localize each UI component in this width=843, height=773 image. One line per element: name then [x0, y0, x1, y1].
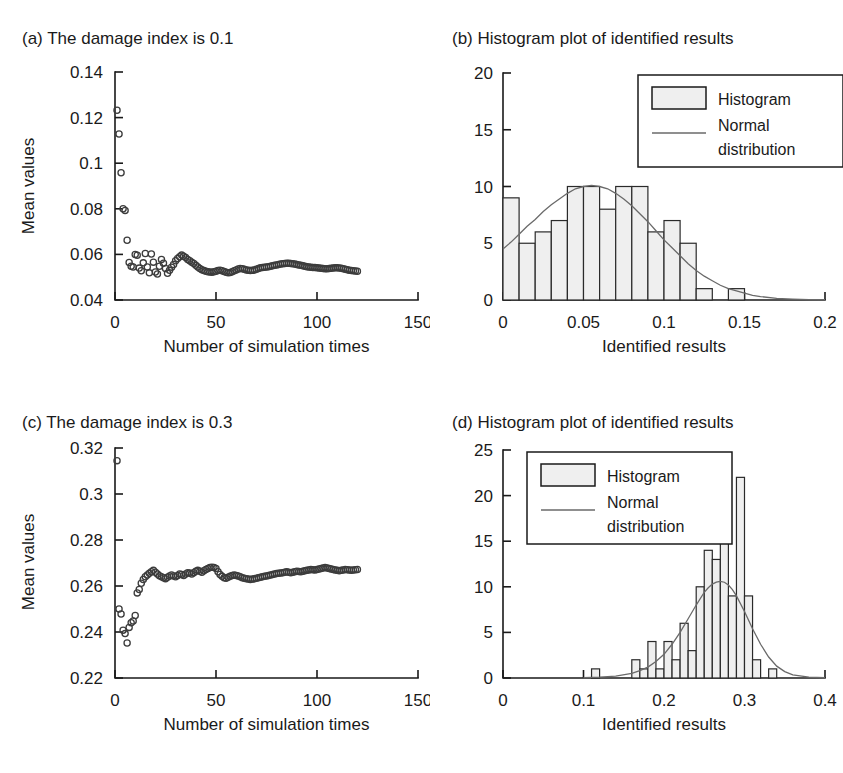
y-tick-label: 0.08: [70, 200, 103, 219]
panel-b-plot: 0510152000.050.10.150.2Identified result…: [474, 64, 843, 356]
histogram-bar: [632, 187, 648, 301]
data-point: [124, 640, 130, 646]
legend-label-normal-line2: distribution: [718, 141, 795, 158]
legend-label-normal-line2: distribution: [607, 518, 684, 535]
histogram-bar: [688, 651, 696, 678]
histogram-bar: [728, 596, 736, 678]
panel-b-title: (b) Histogram plot of identified results: [452, 29, 734, 48]
x-tick-label: 0: [498, 313, 507, 332]
y-tick-label: 0.3: [79, 485, 103, 504]
y-tick-label: 0.12: [70, 109, 103, 128]
histogram-bars: [503, 187, 745, 301]
histogram-bar: [769, 669, 777, 678]
x-axis-label: Identified results: [602, 715, 726, 734]
y-tick-label: 0.14: [70, 63, 103, 82]
x-tick-label: 0.15: [728, 313, 761, 332]
panel-a-plot: 0.040.060.080.10.120.14050100150Number o…: [19, 63, 430, 356]
panel-d-histogram-0p3: (d) Histogram plot of identified results…: [430, 390, 843, 773]
histogram-bar: [736, 477, 744, 678]
y-tick-label: 0.04: [70, 291, 103, 310]
x-tick-label: 0: [498, 691, 507, 710]
y-tick-label: 0.1: [79, 154, 103, 173]
histogram-bar: [664, 221, 680, 300]
histogram-bar: [672, 660, 680, 678]
legend-label-normal-line1: Normal: [718, 117, 770, 134]
histogram-bar: [745, 596, 753, 678]
x-tick-label: 0: [110, 691, 119, 710]
x-tick-label: 150: [404, 313, 430, 332]
y-tick-label: 0.24: [70, 623, 103, 642]
panel-b-svg: (b) Histogram plot of identified results…: [430, 0, 843, 390]
x-tick-label: 50: [207, 691, 226, 710]
y-tick-label: 5: [484, 234, 493, 253]
y-tick-label: 0.28: [70, 531, 103, 550]
legend-label-histogram: Histogram: [718, 91, 791, 108]
histogram-bar: [656, 669, 664, 678]
data-point: [150, 259, 156, 265]
y-tick-label: 0.22: [70, 669, 103, 688]
histogram-bar: [704, 550, 712, 678]
histogram-bar: [648, 642, 656, 678]
scatter-series: [114, 107, 361, 277]
histogram-bar: [696, 587, 704, 678]
panel-c-title: (c) The damage index is 0.3: [22, 413, 232, 432]
y-tick-label: 0.26: [70, 577, 103, 596]
x-axis-label: Number of simulation times: [164, 715, 370, 734]
y-axis-label: Mean values: [19, 514, 38, 610]
panel-d-plot: 051015202500.10.20.30.4Identified result…: [474, 441, 837, 734]
histogram-bar: [503, 198, 519, 300]
axis-frame: [115, 448, 418, 678]
panel-d-title: (d) Histogram plot of identified results: [452, 413, 734, 432]
data-point: [142, 250, 148, 256]
x-tick-label: 0.2: [813, 313, 837, 332]
histogram-bar: [696, 289, 712, 300]
histogram-bar: [632, 660, 640, 678]
data-point: [146, 270, 152, 276]
panel-c-mean-values-0p3: (c) The damage index is 0.3 0.220.240.26…: [0, 390, 430, 773]
x-tick-label: 100: [303, 691, 331, 710]
legend: HistogramNormaldistribution: [527, 452, 732, 544]
x-tick-label: 0.1: [652, 313, 676, 332]
histogram-bar: [648, 232, 664, 300]
y-tick-label: 20: [474, 64, 493, 83]
x-tick-label: 0: [110, 313, 119, 332]
histogram-bar: [712, 559, 720, 678]
legend-label-normal-line1: Normal: [607, 494, 659, 511]
y-tick-label: 5: [484, 623, 493, 642]
y-tick-label: 0: [484, 291, 493, 310]
y-tick-label: 15: [474, 532, 493, 551]
histogram-bar: [664, 642, 672, 678]
histogram-bar: [535, 232, 551, 300]
histogram-bar: [551, 221, 567, 300]
histogram-bar: [680, 243, 696, 300]
panel-a-svg: (a) The damage index is 0.1 0.040.060.08…: [0, 0, 430, 390]
histogram-bar: [567, 187, 583, 301]
data-point: [132, 612, 138, 618]
legend-label-histogram: Histogram: [607, 468, 680, 485]
x-tick-label: 0.2: [652, 691, 676, 710]
x-tick-label: 0.3: [733, 691, 757, 710]
x-axis-label: Number of simulation times: [164, 337, 370, 356]
y-tick-label: 15: [474, 121, 493, 140]
x-axis-label: Identified results: [602, 337, 726, 356]
axis-frame: [115, 72, 418, 300]
histogram-bar: [720, 541, 728, 678]
data-point: [118, 170, 124, 176]
y-tick-label: 0.32: [70, 439, 103, 458]
panel-a-title: (a) The damage index is 0.1: [22, 29, 233, 48]
panel-d-svg: (d) Histogram plot of identified results…: [430, 390, 843, 773]
panel-a-mean-values-0p1: (a) The damage index is 0.1 0.040.060.08…: [0, 0, 430, 390]
y-tick-label: 0: [484, 669, 493, 688]
panel-c-svg: (c) The damage index is 0.3 0.220.240.26…: [0, 390, 430, 773]
histogram-bar: [584, 187, 600, 301]
y-tick-label: 0.06: [70, 245, 103, 264]
y-axis-label: Mean values: [19, 138, 38, 234]
y-tick-label: 25: [474, 441, 493, 460]
y-tick-label: 10: [474, 178, 493, 197]
legend-swatch-histogram: [652, 87, 706, 109]
x-tick-label: 150: [404, 691, 430, 710]
x-tick-label: 50: [207, 313, 226, 332]
data-point: [148, 251, 154, 257]
legend: HistogramNormaldistribution: [638, 75, 843, 167]
data-point: [144, 264, 150, 270]
